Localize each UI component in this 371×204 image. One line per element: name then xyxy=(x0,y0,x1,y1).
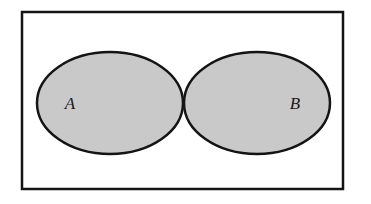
set-a-ellipse xyxy=(37,52,183,154)
venn-diagram-figure: A B xyxy=(0,0,371,204)
set-a-label: A xyxy=(64,94,76,113)
venn-diagram-canvas: A B xyxy=(0,0,371,204)
set-b-label: B xyxy=(290,94,301,113)
set-b-ellipse xyxy=(184,52,330,154)
